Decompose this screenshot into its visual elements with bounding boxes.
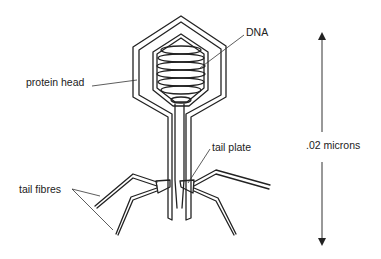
tail-sheath bbox=[175, 104, 184, 208]
label-scale: .02 microns bbox=[306, 139, 360, 151]
label-protein-head: protein head bbox=[26, 76, 85, 88]
label-tail-plate: tail plate bbox=[212, 141, 251, 153]
tail-fibres-right bbox=[194, 170, 270, 235]
label-dna: DNA bbox=[246, 26, 268, 38]
arrow-up-icon bbox=[318, 32, 326, 40]
label-tail-fibres: tail fibres bbox=[19, 183, 61, 195]
arrow-down-icon bbox=[318, 238, 326, 246]
phage-drawing: DNA protein head tail plate tail fibres … bbox=[0, 0, 381, 259]
tail-fibres-left bbox=[95, 174, 157, 235]
phage-diagram: DNA protein head tail plate tail fibres … bbox=[0, 0, 381, 259]
dna-coil bbox=[157, 46, 205, 103]
